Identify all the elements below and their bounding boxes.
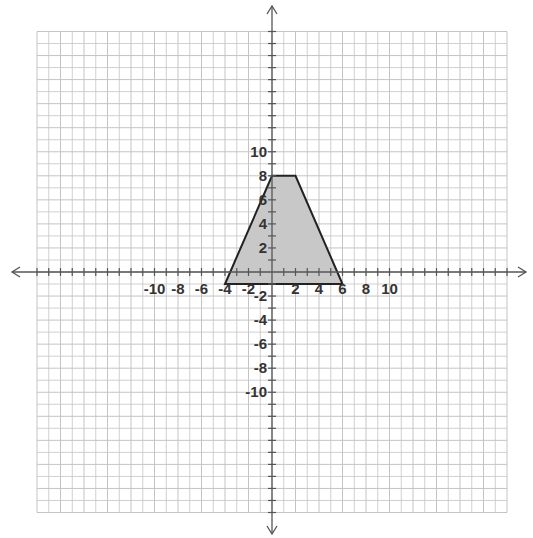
x-tick-label: -6 [195,280,208,297]
y-tick-label: -2 [254,287,267,304]
x-tick-label: 4 [315,280,324,297]
x-tick-label: 8 [362,280,370,297]
x-tick-label: 10 [381,280,398,297]
y-tick-label: -4 [254,311,268,328]
x-tick-label: -10 [144,280,166,297]
y-tick-label: -8 [254,359,267,376]
trapezoid-shape [225,176,343,284]
y-tick-label: 2 [259,239,267,256]
x-tick-label: 6 [338,280,346,297]
x-tick-label: 2 [291,280,299,297]
y-tick-label: 4 [259,215,268,232]
y-tick-label: 8 [259,167,267,184]
y-tick-label: -6 [254,335,267,352]
coordinate-plane: -10-8-6-4-2246810 108642-2-4-6-8-10 [0,0,533,538]
x-tick-label: -8 [171,280,184,297]
y-tick-label: -10 [245,383,267,400]
y-tick-label: 10 [250,143,267,160]
y-tick-label: 6 [259,191,267,208]
x-tick-label: -4 [218,280,232,297]
